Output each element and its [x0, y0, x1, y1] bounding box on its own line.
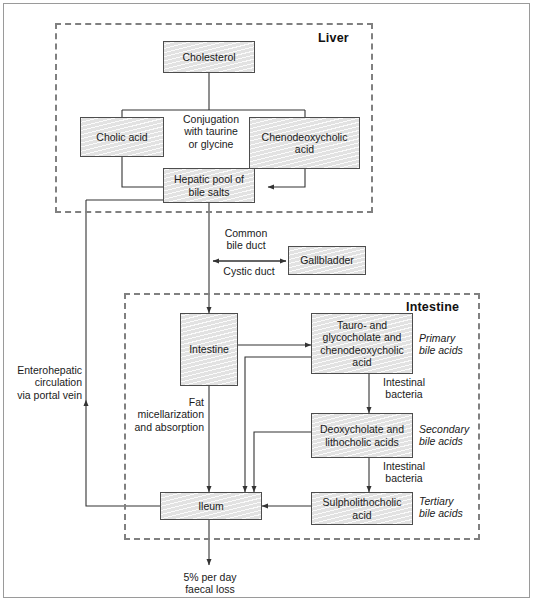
node-cholesterol-label: Cholesterol — [182, 51, 235, 63]
annotation-intestinal-bacteria-secondary: Intestinal bacteria — [373, 460, 435, 485]
annotation-secondary-bile-acids: Secondary bile acids — [419, 423, 485, 448]
node-secondary-bile-acids-label: Deoxycholate and lithocholic acids — [315, 423, 409, 448]
node-cholic-acid[interactable]: Cholic acid — [80, 117, 164, 157]
annotation-enterohepatic-circulation: Enterohepatic circulation via portal vei… — [10, 364, 82, 401]
node-cholic-acid-label: Cholic acid — [96, 131, 147, 143]
compartment-intestine-label: Intestine — [406, 300, 459, 314]
annotation-conjugation: Conjugation with taurine or glycine — [170, 113, 252, 150]
annotation-fat-micellarization: Fat micellarization and absorption — [122, 396, 204, 433]
node-gallbladder-label: Gallbladder — [300, 254, 354, 266]
node-ileum[interactable]: Ileum — [160, 492, 262, 520]
node-tertiary-bile-acids-label: Sulpholithocholic acid — [315, 496, 409, 521]
node-intestine[interactable]: Intestine — [180, 313, 238, 386]
bile-salt-circulation-diagram: Liver Intestine Cholesterol Cholic acid … — [0, 0, 534, 602]
annotation-faecal-loss: 5% per day faecal loss — [166, 571, 254, 596]
annotation-primary-bile-acids: Primary bile acids — [419, 332, 481, 357]
node-secondary-bile-acids[interactable]: Deoxycholate and lithocholic acids — [311, 413, 413, 458]
compartment-liver-label: Liver — [318, 31, 349, 45]
node-hepatic-pool[interactable]: Hepatic pool of bile salts — [163, 168, 255, 203]
annotation-common-bile-duct: Common bile duct — [213, 227, 279, 252]
node-ileum-label: Ileum — [198, 500, 224, 512]
node-chenodeoxycholic-acid-label: Chenodeoxycholic acid — [253, 131, 356, 156]
annotation-tertiary-bile-acids: Tertiary bile acids — [419, 495, 481, 520]
annotation-intestinal-bacteria-primary: Intestinal bacteria — [373, 376, 435, 401]
node-intestine-label: Intestine — [189, 343, 229, 355]
node-gallbladder[interactable]: Gallbladder — [288, 246, 366, 275]
node-primary-bile-acids[interactable]: Tauro- and glycocholate and chenodeoxych… — [311, 313, 413, 374]
annotation-cystic-duct: Cystic duct — [214, 265, 284, 277]
node-tertiary-bile-acids[interactable]: Sulpholithocholic acid — [311, 492, 413, 525]
node-chenodeoxycholic-acid[interactable]: Chenodeoxycholic acid — [249, 117, 360, 169]
node-cholesterol[interactable]: Cholesterol — [163, 41, 255, 73]
node-primary-bile-acids-label: Tauro- and glycocholate and chenodeoxych… — [315, 319, 409, 369]
node-hepatic-pool-label: Hepatic pool of bile salts — [167, 173, 251, 198]
